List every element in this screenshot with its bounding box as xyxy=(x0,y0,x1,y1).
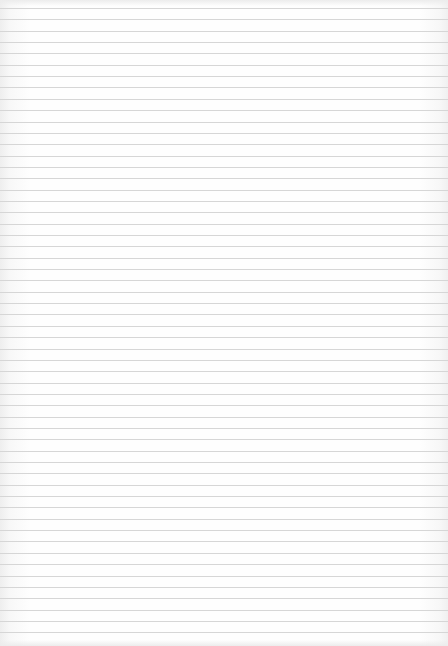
ruled-line xyxy=(0,122,448,123)
ruled-line xyxy=(0,269,448,270)
ruled-line xyxy=(0,428,448,429)
ruled-line xyxy=(0,360,448,361)
ruled-line xyxy=(0,110,448,111)
ruled-line xyxy=(0,212,448,213)
ruled-line xyxy=(0,507,448,508)
ruled-line xyxy=(0,405,448,406)
ruled-line xyxy=(0,383,448,384)
ruled-line xyxy=(0,485,448,486)
ruled-line xyxy=(0,473,448,474)
ruled-line xyxy=(0,87,448,88)
ruled-line xyxy=(0,349,448,350)
ruled-line xyxy=(0,576,448,577)
ruled-line xyxy=(0,144,448,145)
ruled-line xyxy=(0,201,448,202)
ruled-line xyxy=(0,167,448,168)
ruled-line xyxy=(0,519,448,520)
ruled-line xyxy=(0,65,448,66)
ruled-line xyxy=(0,337,448,338)
ruled-line xyxy=(0,314,448,315)
ruled-line xyxy=(0,246,448,247)
ruled-line xyxy=(0,235,448,236)
ruled-line xyxy=(0,99,448,100)
paper-bottom-edge xyxy=(0,640,448,646)
ruled-line xyxy=(0,133,448,134)
ruled-line xyxy=(0,31,448,32)
ruled-line xyxy=(0,156,448,157)
ruled-line xyxy=(0,258,448,259)
ruled-line xyxy=(0,394,448,395)
ruled-line xyxy=(0,8,448,9)
ruled-line xyxy=(0,530,448,531)
ruled-line xyxy=(0,178,448,179)
ruled-line xyxy=(0,621,448,622)
paper-top-edge xyxy=(0,0,448,6)
ruled-line xyxy=(0,451,448,452)
ruled-line xyxy=(0,462,448,463)
ruled-line xyxy=(0,371,448,372)
ruled-line xyxy=(0,292,448,293)
ruled-line xyxy=(0,587,448,588)
ruled-line xyxy=(0,610,448,611)
ruled-line xyxy=(0,564,448,565)
ruled-line xyxy=(0,224,448,225)
ruled-line xyxy=(0,439,448,440)
ruled-line xyxy=(0,76,448,77)
ruled-line xyxy=(0,190,448,191)
ruled-line xyxy=(0,19,448,20)
ruled-line xyxy=(0,326,448,327)
ruled-line xyxy=(0,598,448,599)
lined-paper-sheet xyxy=(0,0,448,646)
ruled-line xyxy=(0,496,448,497)
ruled-line xyxy=(0,632,448,633)
ruled-line xyxy=(0,42,448,43)
ruled-line xyxy=(0,553,448,554)
ruled-line xyxy=(0,417,448,418)
ruled-line xyxy=(0,541,448,542)
ruled-line xyxy=(0,53,448,54)
ruled-line xyxy=(0,280,448,281)
ruled-line xyxy=(0,303,448,304)
